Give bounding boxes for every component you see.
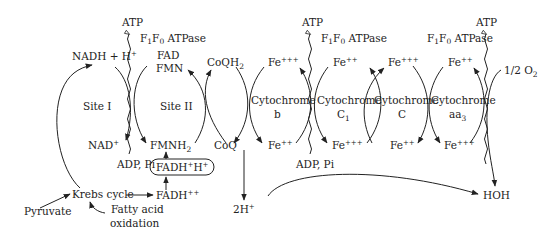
cyt-c1-name: Cytochrome — [317, 94, 382, 106]
adp-pi-label-2: ADP, Pi — [295, 158, 335, 170]
fatty-acid-arrow — [90, 202, 105, 213]
cyt-c1-sub: C1 — [337, 108, 350, 123]
cytochrome-b: Fe+++ Cytochrome b Fe++ — [249, 56, 315, 151]
coq-right-arc — [234, 67, 248, 143]
site-2-label: Site II — [160, 100, 193, 112]
cyt-b-bottom-label: Fe++ — [268, 139, 293, 151]
cyt-c-bottom-label: Fe++ — [390, 139, 415, 151]
krebs-cycle-label: Krebs cycle — [72, 188, 134, 200]
water-label: HOH — [483, 189, 510, 201]
cyt-aa3-sub: aa3 — [449, 108, 467, 123]
cyt-b-name: Cytochrome — [251, 94, 316, 106]
proton-return-arrow — [268, 174, 478, 196]
pyruvate-label: Pyruvate — [24, 205, 71, 217]
fadh2-label: FADH++ — [156, 189, 199, 201]
oxygen-to-water-arrow — [487, 70, 501, 186]
fadh-h-label: FADH+H+ — [156, 161, 209, 173]
nadh-label: NADH + H+ — [72, 50, 137, 62]
cyt-b-sub: b — [274, 108, 281, 120]
cyt-aa3-bottom-label: Fe+++ — [444, 139, 475, 151]
atp-label-2: ATP — [301, 16, 323, 28]
cytochrome-c1: Fe++ Cytochrome C1 Fe+++ — [314, 56, 381, 151]
cyt-c-sub: C — [398, 108, 406, 120]
protons-label: 2H+ — [233, 203, 255, 215]
electron-transport-diagram: ATP F1F0 ATPase ADP, Pi NADH + H+ Site I… — [0, 0, 554, 240]
oxidation-label: oxidation — [110, 217, 159, 229]
fatty-acid-label: Fatty acid — [111, 203, 164, 215]
fmnh2-label: FMNH2 — [150, 139, 191, 154]
coqh2-label: CoQH2 — [207, 56, 244, 71]
fad-label: FAD — [157, 49, 179, 61]
atp-label-3: ATP — [475, 16, 497, 28]
coq-left-arc — [205, 70, 226, 143]
fmn-label: FMN — [156, 62, 183, 74]
coenzyme-q: CoQH2 CoQ 2H+ — [205, 56, 255, 215]
cyt-aa3-top-label: Fe++ — [448, 56, 473, 68]
nad-label: NAD+ — [88, 139, 119, 151]
cyt-b-top-label: Fe+++ — [268, 56, 299, 68]
cyt-c1-top-label: Fe++ — [333, 56, 358, 68]
cyt-c1-bottom-label: Fe+++ — [332, 139, 363, 151]
atpase-label-1: F1F0 ATPase — [140, 32, 206, 46]
atpase-label-2: F1F0 ATPase — [321, 32, 387, 46]
cyt-c-top-label: Fe+++ — [388, 56, 419, 68]
oxygen-label: 1/2 O2 — [504, 64, 538, 79]
krebs-to-nadh-arrow — [57, 65, 92, 188]
site-2: FAD FMN Site II FMNH2 — [134, 49, 205, 154]
cytochrome-c: Fe+++ Cytochrome C Fe++ — [364, 56, 439, 151]
site-1-label: Site I — [83, 100, 111, 112]
coq-label: CoQ — [214, 139, 237, 151]
site-2-left-arc — [134, 66, 147, 143]
fadh-group: FADH+H+ FADH++ — [150, 152, 214, 201]
atp-label-1: ATP — [121, 16, 143, 28]
atpase-label-3: F1F0 ATPase — [427, 32, 493, 46]
